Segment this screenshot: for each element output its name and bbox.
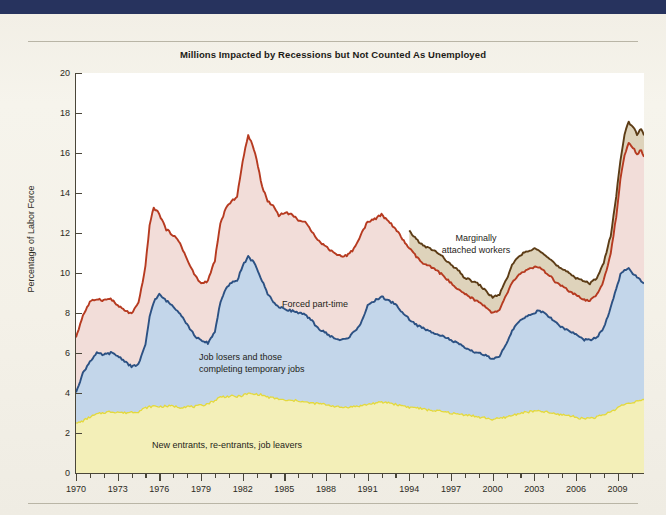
y-tick-mark — [75, 113, 82, 114]
header-rule — [28, 41, 638, 42]
x-tick-minor — [104, 474, 105, 478]
y-tick: 2 — [34, 427, 82, 439]
x-tick-label: 1973 — [98, 484, 138, 494]
x-tick-label: 1988 — [306, 484, 346, 494]
y-tick-label: 14 — [60, 187, 70, 199]
x-tick-major — [368, 474, 369, 481]
x-tick-minor — [215, 474, 216, 478]
x-tick-major — [284, 474, 285, 481]
annotation-job-losers-line1: Job losers and those — [199, 352, 305, 364]
annotation-marginally-attached-line1: Marginally — [431, 233, 521, 245]
x-tick-minor — [229, 474, 230, 478]
x-tick-minor — [479, 474, 480, 478]
y-tick-mark — [75, 73, 82, 74]
y-tick-mark — [75, 233, 82, 234]
y-tick-mark — [75, 193, 82, 194]
annotation-marginally-attached: Marginally attached workers — [431, 233, 521, 256]
x-tick-major — [159, 474, 160, 481]
annotation-job-losers-line2: completing temporary jobs — [199, 364, 305, 376]
x-tick-major — [118, 474, 119, 481]
x-tick-label: 2000 — [473, 484, 513, 494]
x-tick-major — [409, 474, 410, 481]
y-tick-label: 16 — [60, 147, 70, 159]
x-tick-label: 1991 — [348, 484, 388, 494]
y-tick-mark — [75, 313, 82, 314]
y-tick-label: 6 — [65, 347, 70, 359]
y-tick: 0 — [34, 467, 82, 479]
x-tick-major — [534, 474, 535, 481]
page-canvas: Millions Impacted by Recessions but Not … — [0, 0, 666, 515]
y-tick: 14 — [34, 187, 82, 199]
x-tick-minor — [604, 474, 605, 478]
footer-rule — [28, 503, 638, 504]
x-tick-label: 1979 — [181, 484, 221, 494]
y-tick: 8 — [34, 307, 82, 319]
y-tick-label: 10 — [60, 267, 70, 279]
y-tick-label: 0 — [65, 467, 70, 479]
x-tick-minor — [257, 474, 258, 478]
y-tick-label: 4 — [65, 387, 70, 399]
x-tick-major — [576, 474, 577, 481]
x-tick-major — [326, 474, 327, 481]
y-tick-mark — [75, 273, 82, 274]
x-tick-minor — [520, 474, 521, 478]
x-tick-major — [201, 474, 202, 481]
x-tick-label: 2009 — [598, 484, 638, 494]
x-tick-label: 2006 — [556, 484, 596, 494]
x-tick-minor — [423, 474, 424, 478]
x-tick-minor — [187, 474, 188, 478]
y-axis-label: Percentage of Labor Force — [26, 129, 36, 349]
x-tick-minor — [312, 474, 313, 478]
x-tick-label: 1997 — [431, 484, 471, 494]
x-tick-label: 1976 — [139, 484, 179, 494]
x-tick-major — [493, 474, 494, 481]
x-tick-minor — [382, 474, 383, 478]
plot-area — [76, 73, 644, 473]
stacked-area-chart — [76, 73, 644, 473]
x-tick-label: 1985 — [264, 484, 304, 494]
x-tick-minor — [437, 474, 438, 478]
y-tick-label: 12 — [60, 227, 70, 239]
x-tick-major — [451, 474, 452, 481]
x-tick-minor — [395, 474, 396, 478]
y-tick: 4 — [34, 387, 82, 399]
x-tick-minor — [590, 474, 591, 478]
x-tick-minor — [145, 474, 146, 478]
x-tick-label: 2003 — [514, 484, 554, 494]
y-tick-mark — [75, 153, 82, 154]
annotation-new-entrants: New entrants, re-entrants, job leavers — [152, 440, 302, 452]
page-body: Millions Impacted by Recessions but Not … — [0, 14, 666, 515]
y-tick-label: 18 — [60, 107, 70, 119]
x-tick-minor — [340, 474, 341, 478]
x-tick-label: 1982 — [223, 484, 263, 494]
x-tick-minor — [562, 474, 563, 478]
y-tick-mark — [75, 433, 82, 434]
page-top-band — [0, 0, 666, 14]
y-tick-label: 2 — [65, 427, 70, 439]
y-tick: 10 — [34, 267, 82, 279]
y-tick: 6 — [34, 347, 82, 359]
y-tick-mark — [75, 353, 82, 354]
chart-title: Millions Impacted by Recessions but Not … — [0, 49, 666, 60]
y-tick-label: 8 — [65, 307, 70, 319]
x-tick-label: 1994 — [389, 484, 429, 494]
x-tick-minor — [132, 474, 133, 478]
annotation-job-losers: Job losers and those completing temporar… — [199, 352, 305, 375]
x-tick-major — [243, 474, 244, 481]
y-tick: 12 — [34, 227, 82, 239]
y-tick: 16 — [34, 147, 82, 159]
y-tick-mark — [75, 393, 82, 394]
annotation-marginally-attached-line2: attached workers — [431, 245, 521, 257]
y-tick: 20 — [34, 67, 82, 79]
x-tick-minor — [632, 474, 633, 478]
x-tick-minor — [507, 474, 508, 478]
x-tick-minor — [548, 474, 549, 478]
y-tick-label: 20 — [60, 67, 70, 79]
x-tick-label: 1970 — [56, 484, 96, 494]
x-tick-major — [618, 474, 619, 481]
x-tick-minor — [465, 474, 466, 478]
y-tick: 18 — [34, 107, 82, 119]
x-tick-major — [76, 474, 77, 481]
annotation-forced-part-time: Forced part-time — [282, 299, 348, 311]
x-tick-minor — [354, 474, 355, 478]
